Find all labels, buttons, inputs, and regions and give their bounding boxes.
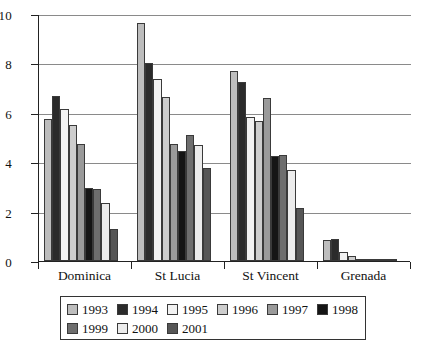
x-group-label-grenada: Grenada — [317, 268, 410, 284]
y-tick-mark-2 — [31, 213, 38, 214]
bar-grenada-1999 — [372, 259, 380, 261]
legend-label-1994: 1994 — [132, 303, 158, 316]
y-tick-mark-4 — [31, 163, 38, 164]
x-group-label-dominica: Dominica — [38, 268, 131, 284]
legend-item-2001[interactable]: 2001 — [167, 322, 208, 335]
bar-dominica-1996 — [69, 125, 77, 261]
chart-legend: 199319941995199619971998199920002001 — [60, 296, 366, 340]
legend-swatch-1994-icon — [117, 304, 128, 315]
bar-dominica-2001 — [110, 229, 118, 261]
bar-grenada-2001 — [389, 259, 397, 261]
legend-row-1: 199920002001 — [67, 319, 365, 338]
y-tick-label-8: 8 — [0, 58, 12, 71]
x-group-label-st-lucia: St Lucia — [131, 268, 224, 284]
legend-label-1995: 1995 — [182, 303, 208, 316]
y-tick-label-2: 2 — [0, 207, 12, 220]
bar-st-lucia-1999 — [186, 135, 194, 261]
legend-swatch-2001-icon — [167, 323, 178, 334]
bar-grenada-1993 — [323, 240, 331, 261]
legend-item-1996[interactable]: 1996 — [217, 303, 258, 316]
y-tick-mark-10 — [31, 15, 38, 16]
bar-st-vincent-1999 — [279, 155, 287, 261]
bar-st-lucia-1995 — [153, 79, 161, 261]
bar-group-st-lucia — [132, 14, 225, 261]
legend-label-1996: 1996 — [232, 303, 258, 316]
bar-dominica-1998 — [85, 188, 93, 261]
bar-st-lucia-2000 — [194, 145, 202, 261]
legend-item-1994[interactable]: 1994 — [117, 303, 158, 316]
bar-st-vincent-1996 — [255, 121, 263, 261]
y-tick-mark-0 — [31, 262, 38, 263]
y-tick-mark-6 — [31, 114, 38, 115]
x-group-label-st-vincent: St Vincent — [224, 268, 317, 284]
legend-item-1998[interactable]: 1998 — [317, 303, 358, 316]
legend-label-1993: 1993 — [82, 303, 108, 316]
bar-st-lucia-1993 — [137, 23, 145, 261]
legend-swatch-1998-icon — [317, 304, 328, 315]
legend-item-1995[interactable]: 1995 — [167, 303, 208, 316]
bar-st-lucia-1997 — [170, 144, 178, 261]
bar-grenada-1997 — [356, 259, 364, 261]
bar-group-dominica — [39, 14, 132, 261]
legend-item-1997[interactable]: 1997 — [267, 303, 308, 316]
legend-row-0: 199319941995199619971998 — [67, 300, 365, 319]
y-tick-label-6: 6 — [0, 108, 12, 121]
y-tick-mark-8 — [31, 64, 38, 65]
legend-item-1993[interactable]: 1993 — [67, 303, 108, 316]
bar-dominica-1994 — [52, 96, 60, 261]
y-tick-label-0: 0 — [0, 256, 12, 269]
legend-swatch-2000-icon — [117, 323, 128, 334]
x-tick-mark-4 — [410, 262, 411, 269]
bar-dominica-2000 — [101, 203, 109, 261]
bar-group-grenada — [318, 14, 411, 261]
legend-label-1997: 1997 — [282, 303, 308, 316]
bar-grenada-1994 — [331, 239, 339, 261]
bar-chart: 10 8 6 4 2 0 Dominica St Lucia St Vincen… — [0, 0, 426, 350]
bar-st-lucia-1994 — [145, 63, 153, 261]
legend-swatch-1999-icon — [67, 323, 78, 334]
bar-st-vincent-2000 — [287, 170, 295, 261]
bar-dominica-1993 — [44, 119, 52, 261]
bar-st-lucia-1998 — [178, 151, 186, 261]
bar-group-st-vincent — [225, 14, 318, 261]
bar-grenada-1998 — [364, 259, 372, 261]
y-tick-label-4: 4 — [0, 157, 12, 170]
bar-st-lucia-1996 — [162, 97, 170, 261]
bar-grenada-1996 — [348, 256, 356, 261]
bar-st-vincent-1998 — [271, 156, 279, 261]
legend-swatch-1996-icon — [217, 304, 228, 315]
bar-st-lucia-2001 — [203, 168, 211, 261]
legend-label-2000: 2000 — [132, 322, 158, 335]
bar-st-vincent-1994 — [238, 82, 246, 261]
legend-label-1999: 1999 — [82, 322, 108, 335]
legend-swatch-1997-icon — [267, 304, 278, 315]
bar-dominica-1995 — [60, 109, 68, 261]
legend-swatch-1995-icon — [167, 304, 178, 315]
bar-st-vincent-1993 — [230, 71, 238, 261]
legend-item-1999[interactable]: 1999 — [67, 322, 108, 335]
y-tick-label-10: 10 — [0, 9, 12, 22]
bar-grenada-1995 — [339, 252, 347, 261]
legend-label-2001: 2001 — [182, 322, 208, 335]
legend-swatch-1993-icon — [67, 304, 78, 315]
bar-dominica-1999 — [93, 189, 101, 261]
plot-area — [38, 15, 410, 262]
bar-grenada-2000 — [380, 259, 388, 261]
legend-label-1998: 1998 — [332, 303, 358, 316]
bar-st-vincent-2001 — [296, 208, 304, 261]
bar-st-vincent-1995 — [246, 117, 254, 261]
legend-item-2000[interactable]: 2000 — [117, 322, 158, 335]
bar-st-vincent-1997 — [263, 98, 271, 261]
bar-dominica-1997 — [77, 144, 85, 261]
